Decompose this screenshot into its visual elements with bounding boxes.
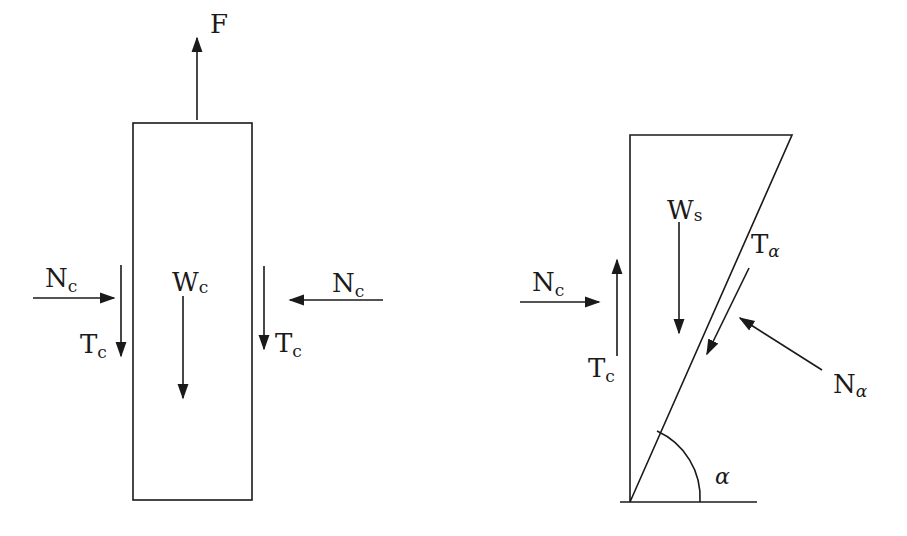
force-tc-left-label: Tc: [80, 329, 107, 362]
force-tc-wedge-label: Tc: [588, 353, 615, 386]
force-nalpha-label: Nα: [833, 369, 868, 401]
force-talpha-label: Tα: [751, 229, 780, 261]
column-rectangle: [133, 123, 252, 500]
force-f-label: F: [210, 9, 228, 39]
column-body: F Nc Tc Wc Tc: [33, 9, 383, 500]
angle-alpha-arc: [657, 431, 700, 502]
force-ws-label: Ws: [667, 195, 702, 225]
wedge-body: Nc Tc Ws Tα Nα α: [520, 135, 868, 502]
wedge-outline: [630, 135, 792, 502]
free-body-diagram: F Nc Tc Wc Tc: [0, 0, 907, 536]
force-nc-wedge-label: Nc: [532, 267, 564, 300]
force-nc-right-label: Nc: [332, 268, 364, 301]
force-tc-right-label: Tc: [275, 328, 302, 361]
force-nc-left-label: Nc: [45, 263, 77, 296]
force-nalpha-arrow-icon: [740, 318, 822, 370]
force-wc-label: Wc: [172, 267, 208, 297]
angle-alpha-label: α: [715, 464, 730, 489]
